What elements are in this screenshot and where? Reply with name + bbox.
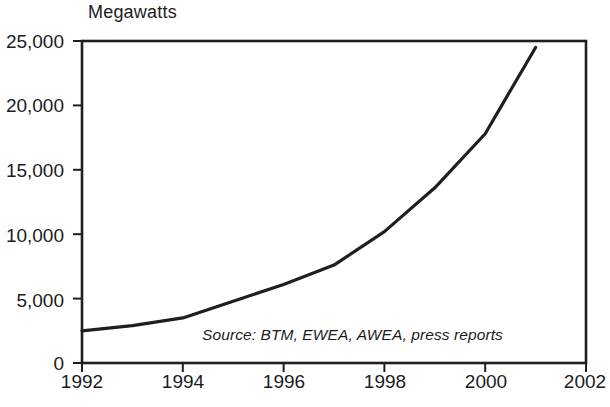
plot-area (0, 0, 610, 407)
y-axis-tick-marks (73, 41, 82, 363)
data-series-line (82, 47, 536, 330)
x-axis-tick-marks (82, 363, 586, 372)
chart-figure: Megawatts 25,000 20,000 15,000 10,000 5,… (0, 0, 610, 407)
